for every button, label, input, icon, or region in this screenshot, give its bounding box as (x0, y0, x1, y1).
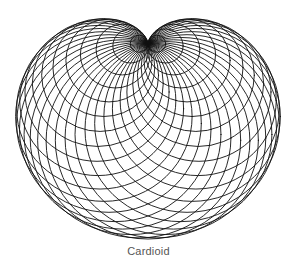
cardioid-figure: Cardioid (0, 0, 297, 271)
envelope-circles (16, 19, 281, 240)
figure-caption: Cardioid (0, 245, 297, 257)
cardioid-drawing (0, 0, 297, 271)
